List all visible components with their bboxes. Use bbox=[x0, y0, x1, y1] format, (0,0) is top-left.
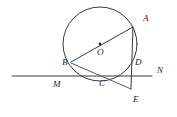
point-label-m: M bbox=[53, 80, 61, 89]
point-label-b: B bbox=[62, 58, 68, 67]
point-label-c: C bbox=[99, 79, 105, 88]
point-label-n: N bbox=[157, 66, 163, 75]
point-label-e: E bbox=[133, 95, 139, 104]
figure-canvas bbox=[0, 0, 177, 117]
geometry-figure: A B C D E M N O bbox=[0, 0, 177, 117]
center-point-dot bbox=[99, 43, 102, 46]
segment-ae bbox=[131, 27, 133, 89]
point-label-a: A bbox=[143, 14, 149, 23]
point-label-d: D bbox=[135, 58, 142, 67]
point-label-o: O bbox=[97, 48, 104, 57]
